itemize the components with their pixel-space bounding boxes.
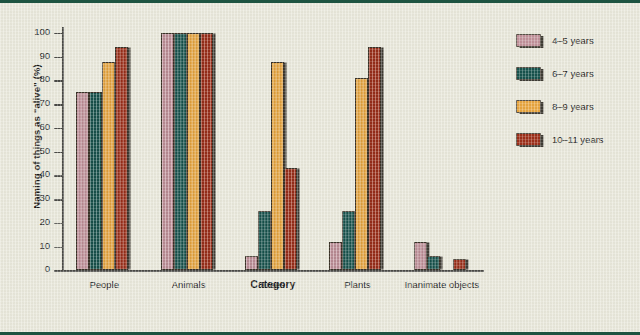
bar — [284, 168, 297, 270]
bar — [115, 47, 128, 270]
legend-swatch — [516, 34, 541, 47]
y-axis-tick-label: 100 — [24, 26, 50, 37]
legend-item: 10–11 years — [516, 130, 636, 148]
bar — [102, 62, 115, 271]
bar-group — [161, 27, 213, 270]
legend-item: 6–7 years — [516, 64, 636, 82]
x-axis-line — [62, 270, 484, 272]
bar — [271, 62, 284, 271]
y-axis-line — [62, 27, 64, 272]
y-axis-tick: 100 — [54, 33, 62, 34]
y-axis-tick: 50 — [54, 152, 62, 153]
legend-item: 8–9 years — [516, 97, 636, 115]
bar — [368, 47, 381, 270]
bar — [427, 256, 440, 270]
bar — [89, 92, 102, 270]
legend-label: 4–5 years — [552, 35, 594, 46]
y-axis-tick-label: 20 — [24, 216, 50, 227]
bar — [453, 259, 466, 271]
y-axis-tick-label: 50 — [24, 145, 50, 156]
y-axis-tick: 80 — [54, 80, 62, 81]
y-axis-tick: 70 — [54, 104, 62, 105]
y-axis-tick: 90 — [54, 57, 62, 58]
bar — [245, 256, 258, 270]
bar-group — [245, 27, 297, 270]
bar — [76, 92, 89, 270]
bar — [187, 33, 200, 270]
bar — [161, 33, 174, 270]
legend-item: 4–5 years — [516, 31, 636, 49]
bar — [414, 242, 427, 270]
y-axis-tick-label: 0 — [24, 263, 50, 274]
chart-legend: 4–5 years6–7 years8–9 years10–11 years — [516, 31, 636, 163]
legend-label: 6–7 years — [552, 68, 594, 79]
y-axis-tick: 40 — [54, 175, 62, 176]
legend-swatch — [516, 67, 541, 80]
bar-group — [414, 27, 466, 270]
bar — [329, 242, 342, 270]
bar — [200, 33, 213, 270]
y-axis-tick-label: 90 — [24, 50, 50, 61]
bar — [342, 211, 355, 270]
legend-label: 8–9 years — [552, 101, 594, 112]
bar-group — [76, 27, 128, 270]
bar — [355, 78, 368, 270]
y-axis-tick-label: 10 — [24, 240, 50, 251]
y-axis-tick-label: 30 — [24, 192, 50, 203]
bar-group — [329, 27, 381, 270]
y-axis-tick-label: 80 — [24, 73, 50, 84]
y-axis-tick: 60 — [54, 128, 62, 129]
bar — [174, 33, 187, 270]
y-axis-tick: 0 — [54, 270, 62, 271]
y-axis-tick-label: 60 — [24, 121, 50, 132]
legend-swatch — [516, 133, 541, 146]
legend-label: 10–11 years — [552, 134, 604, 145]
y-axis-tick-label: 70 — [24, 97, 50, 108]
y-axis-tick-label: 40 — [24, 168, 50, 179]
y-axis-tick: 20 — [54, 223, 62, 224]
y-axis-tick: 10 — [54, 247, 62, 248]
figure-panel: Naming of things as “alive” (%) 01020304… — [0, 0, 640, 335]
legend-swatch — [516, 100, 541, 113]
bar — [258, 211, 271, 270]
plot-area: 0102030405060708090100 PeopleAnimalsTree… — [62, 27, 484, 272]
x-axis-title: Category — [62, 279, 484, 290]
y-axis-tick: 30 — [54, 199, 62, 200]
